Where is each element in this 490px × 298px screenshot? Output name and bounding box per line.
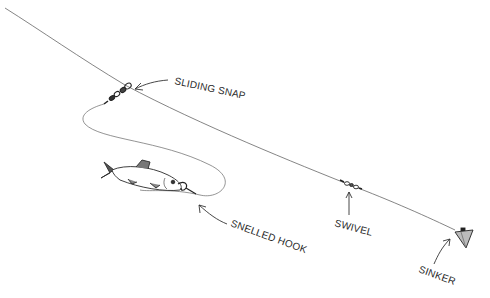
label-snelled-hook: SNELLED HOOK (229, 218, 308, 256)
fishing-rig-diagram: SLIDING SNAP SNELLED HOOK SWIVEL SINKER (0, 0, 490, 298)
sliding-snap-icon (104, 82, 132, 104)
label-sliding-snap: SLIDING SNAP (174, 75, 247, 101)
baitfish-icon (101, 160, 181, 191)
arrow-snelled-hook (199, 205, 227, 224)
main-line (5, 8, 455, 230)
swivel-icon (340, 180, 362, 189)
sinker-icon (455, 228, 473, 248)
label-sinker: SINKER (417, 264, 457, 287)
arrow-sinker (434, 239, 450, 264)
annotation-arrows (135, 80, 450, 264)
label-swivel: SWIVEL (333, 217, 374, 238)
